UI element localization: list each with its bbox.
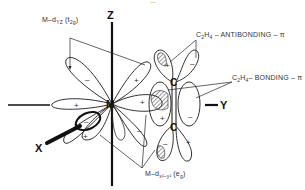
svg-text:–: – (190, 59, 195, 68)
label-antibonding: C2H4 – ANTIBONDING – π (196, 31, 285, 40)
svg-text:–: – (85, 75, 90, 84)
svg-text:–: – (137, 126, 142, 135)
svg-text:–: – (84, 117, 89, 126)
svg-text:+: + (83, 132, 88, 141)
leader-lines (69, 38, 233, 168)
svg-text:+: + (74, 101, 79, 110)
label-bonding: C2H4– BONDING – π (232, 74, 302, 83)
label-m-dx2y2: M–dx²–y²(eg) (145, 170, 185, 179)
z-axis-label: Z (107, 9, 114, 21)
svg-text:–: – (163, 139, 168, 148)
svg-text:+: + (186, 138, 191, 147)
x-axis-label: X (35, 142, 43, 154)
sign-labels: – + + + – + – + – + – – + (74, 59, 195, 148)
svg-text:+: + (165, 61, 170, 70)
svg-text:–: – (188, 112, 193, 121)
y-axis-label: Y (220, 99, 228, 111)
svg-text:+: + (140, 98, 145, 107)
orbital-interaction-diagram: … Z X Y C (0, 0, 305, 190)
top-cutoff-text: … (150, 0, 156, 4)
metal-atom: M (106, 99, 114, 110)
svg-text:+: + (134, 76, 139, 85)
svg-text:+: + (160, 114, 165, 123)
y-axis: Y (205, 99, 228, 111)
label-m-dyz: M–dYZ(t2g) (42, 16, 78, 25)
carbon-top: C (170, 77, 177, 88)
